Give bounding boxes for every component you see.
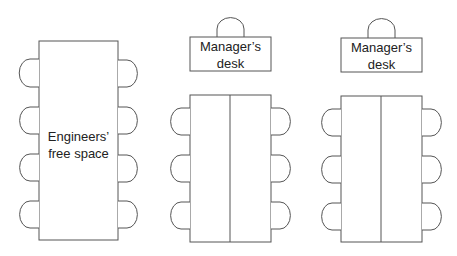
label-line: Manager’s <box>341 39 422 56</box>
chair <box>118 155 137 182</box>
engineers-label: Engineers’ free space <box>39 128 118 162</box>
label-line: Engineers’ <box>39 128 118 145</box>
manager-desk-label: Manager’s desk <box>190 38 271 72</box>
chair <box>322 109 341 136</box>
chair <box>118 201 137 228</box>
chair <box>422 109 441 136</box>
label-line: desk <box>341 56 422 73</box>
label-line: free space <box>39 145 118 162</box>
chair <box>19 59 39 87</box>
chair <box>271 108 290 135</box>
chair <box>171 202 190 229</box>
chair <box>171 108 190 135</box>
chair <box>422 156 441 183</box>
chair <box>20 201 39 228</box>
chair <box>322 203 341 230</box>
label-line: desk <box>190 55 271 72</box>
chair <box>322 156 341 183</box>
manager-desk-label: Manager’s desk <box>341 39 422 73</box>
manager-chair <box>217 18 244 37</box>
chair <box>271 155 290 182</box>
chair <box>20 107 39 134</box>
chair <box>118 60 137 87</box>
chair <box>20 154 39 181</box>
manager-chair <box>368 19 395 38</box>
label-line: Manager’s <box>190 38 271 55</box>
chair <box>271 202 290 229</box>
chair <box>118 107 137 134</box>
chair <box>171 155 190 182</box>
chair <box>422 203 441 230</box>
